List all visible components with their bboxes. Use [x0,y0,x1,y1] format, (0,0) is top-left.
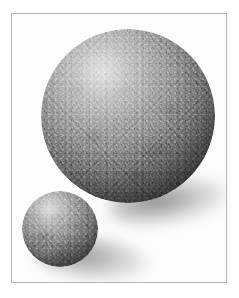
photo-figure [0,0,239,298]
small-sphere [22,191,98,267]
photo-canvas [12,14,226,282]
small-sphere-shading [22,191,98,267]
large-sphere [41,29,215,203]
photo-frame-border [11,13,227,283]
large-sphere-shading [41,29,215,203]
